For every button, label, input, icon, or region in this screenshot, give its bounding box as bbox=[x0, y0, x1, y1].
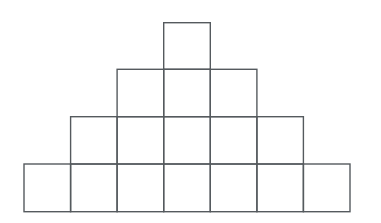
square-cell-r4-c4 bbox=[164, 164, 211, 212]
square-cell-r3-c3 bbox=[164, 117, 211, 164]
square-cell-r4-c7 bbox=[303, 164, 350, 212]
square-cell-r4-c5 bbox=[210, 164, 257, 212]
square-cell-r4-c6 bbox=[257, 164, 304, 212]
square-cell-r3-c2 bbox=[117, 117, 164, 164]
square-cell-r2-c3 bbox=[210, 69, 257, 116]
square-cell-r3-c5 bbox=[257, 117, 304, 164]
square-cell-r3-c4 bbox=[210, 117, 257, 164]
square-cell-r4-c1 bbox=[24, 164, 71, 212]
pyramid-svg-canvas bbox=[0, 0, 381, 223]
square-cell-r2-c1 bbox=[117, 69, 164, 116]
square-cell-r4-c2 bbox=[71, 164, 118, 212]
square-cells-group bbox=[24, 23, 350, 212]
square-cell-r1-c1 bbox=[164, 23, 211, 70]
pyramid-figure bbox=[0, 0, 381, 223]
square-cell-r4-c3 bbox=[117, 164, 164, 212]
square-cell-r2-c2 bbox=[164, 69, 211, 116]
square-cell-r3-c1 bbox=[71, 117, 118, 164]
